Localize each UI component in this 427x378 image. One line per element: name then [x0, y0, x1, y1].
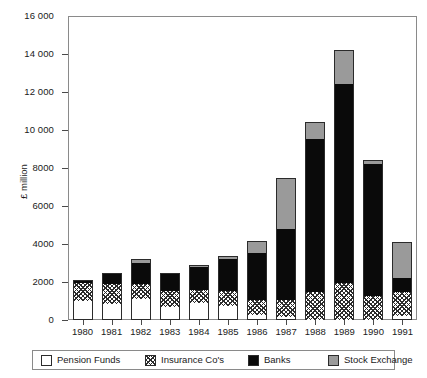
- bar-segment-1991-banks: [392, 278, 412, 291]
- bar-segment-1988-insurance: [305, 292, 325, 320]
- y-axis-tick-label: 2000: [32, 277, 54, 287]
- legend-label-stock: Stock Exchange: [344, 355, 413, 365]
- bar-segment-1985-stock: [218, 256, 238, 259]
- bar-segment-1987-stock: [276, 178, 296, 229]
- bar-1980: [73, 280, 93, 320]
- x-axis-tick-label-1983: 1983: [154, 326, 186, 337]
- legend-item-stock[interactable]: Stock Exchange: [328, 355, 413, 366]
- legend-swatch-insurance-icon: [145, 355, 156, 366]
- bar-1987: [276, 178, 296, 321]
- x-axis-tick-mark: [373, 320, 374, 325]
- y-axis-tick-label: 16 000: [24, 11, 54, 21]
- bar-segment-1985-insurance: [218, 291, 238, 306]
- bar-segment-1987-insurance: [276, 300, 296, 317]
- bar-1991: [392, 242, 412, 320]
- x-axis-tick-mark: [286, 320, 287, 325]
- x-axis-tick-label-1990: 1990: [357, 326, 389, 337]
- x-axis-tick-label-1984: 1984: [183, 326, 215, 337]
- y-axis: 16 00014 00012 00010 0008000600040002000…: [0, 0, 64, 378]
- legend-item-banks[interactable]: Banks: [248, 355, 290, 366]
- x-axis-tick-label-1987: 1987: [270, 326, 302, 337]
- bar-segment-1982-pension: [131, 299, 151, 320]
- chart-legend: Pension FundsInsurance Co'sBanksStock Ex…: [32, 350, 395, 370]
- legend-swatch-pension-icon: [41, 355, 52, 366]
- legend-item-pension[interactable]: Pension Funds: [41, 355, 120, 366]
- x-axis-tick-mark: [257, 320, 258, 325]
- bar-segment-1990-insurance: [363, 296, 383, 320]
- bar-segment-1983-pension: [160, 307, 180, 320]
- bar-1981: [102, 273, 122, 321]
- bar-segment-1986-insurance: [247, 300, 267, 315]
- y-axis-tick-label: 10 000: [24, 125, 54, 135]
- bar-segment-1991-stock: [392, 242, 412, 278]
- legend-label-insurance: Insurance Co's: [161, 355, 224, 365]
- bar-segment-1988-banks: [305, 139, 325, 293]
- legend-swatch-banks-icon: [248, 355, 259, 366]
- x-axis-tick-label-1981: 1981: [96, 326, 128, 337]
- bar-1982: [131, 259, 151, 320]
- bar-segment-1986-banks: [247, 253, 267, 301]
- bar-1983: [160, 273, 180, 320]
- bar-segment-1980-pension: [73, 301, 93, 320]
- bar-segment-1984-pension: [189, 303, 209, 320]
- x-axis-tick-label-1988: 1988: [299, 326, 331, 337]
- y-axis-title-wrap: £ million: [16, 150, 30, 220]
- x-axis-tick-label-1991: 1991: [386, 326, 418, 337]
- y-axis-tick-label: 0: [49, 315, 54, 325]
- x-axis-tick-mark: [344, 320, 345, 325]
- bar-segment-1989-stock: [334, 50, 354, 84]
- bar-segment-1981-banks: [102, 273, 122, 284]
- bar-1990: [363, 160, 383, 320]
- bar-1989: [334, 50, 354, 320]
- bar-segment-1991-insurance: [392, 292, 412, 317]
- x-axis-tick-mark: [170, 320, 171, 325]
- bar-1984: [189, 265, 209, 320]
- x-axis-tick-label-1980: 1980: [67, 326, 99, 337]
- chart-figure: 16 00014 00012 00010 0008000600040002000…: [0, 0, 427, 378]
- bar-1986: [247, 241, 267, 320]
- x-axis-tick-mark: [315, 320, 316, 325]
- y-axis-tick-label: 12 000: [24, 87, 54, 97]
- bar-segment-1984-stock: [189, 265, 209, 267]
- legend-swatch-stock-icon: [328, 355, 339, 366]
- x-axis-tick-mark: [228, 320, 229, 325]
- bar-segment-1986-stock: [247, 241, 267, 252]
- bar-1985: [218, 256, 238, 320]
- bar-segment-1989-banks: [334, 84, 354, 283]
- x-axis-tick-label-1986: 1986: [241, 326, 273, 337]
- x-axis-tick-mark: [141, 320, 142, 325]
- y-axis-title: £ million: [18, 147, 29, 217]
- x-axis-tick-label-1982: 1982: [125, 326, 157, 337]
- legend-item-insurance[interactable]: Insurance Co's: [145, 355, 224, 366]
- x-axis-tick-mark: [199, 320, 200, 325]
- bar-segment-1982-banks: [131, 263, 151, 284]
- y-axis-tick-label: 14 000: [24, 49, 54, 59]
- x-axis-tick-mark: [83, 320, 84, 325]
- legend-label-pension: Pension Funds: [57, 355, 120, 365]
- bar-segment-1987-banks: [276, 229, 296, 300]
- bar-1988: [305, 122, 325, 320]
- bar-segment-1980-insurance: [73, 283, 93, 301]
- bar-segment-1989-insurance: [334, 283, 354, 320]
- bar-segment-1988-stock: [305, 122, 325, 138]
- bar-segment-1980-stock: [73, 280, 93, 281]
- x-axis-tick-label-1989: 1989: [328, 326, 360, 337]
- bar-segment-1985-pension: [218, 306, 238, 320]
- bar-segment-1984-banks: [189, 267, 209, 290]
- x-axis: 1980198119821983198419851986198719881989…: [68, 320, 417, 342]
- bar-segment-1983-banks: [160, 273, 180, 290]
- bar-segment-1981-insurance: [102, 284, 122, 304]
- bar-segment-1985-banks: [218, 259, 238, 290]
- x-axis-tick-mark: [112, 320, 113, 325]
- bar-segment-1984-insurance: [189, 290, 209, 303]
- y-axis-tick-label: 6000: [32, 201, 54, 211]
- bar-segment-1982-stock: [131, 259, 151, 263]
- x-axis-tick-mark: [402, 320, 403, 325]
- bar-segment-1981-pension: [102, 304, 122, 320]
- legend-label-banks: Banks: [264, 355, 290, 365]
- bar-segment-1990-stock: [363, 160, 383, 164]
- x-axis-tick-label-1985: 1985: [212, 326, 244, 337]
- bar-segment-1983-insurance: [160, 291, 180, 307]
- y-axis-tick-label: 4000: [32, 239, 54, 249]
- bars-layer: [68, 16, 417, 320]
